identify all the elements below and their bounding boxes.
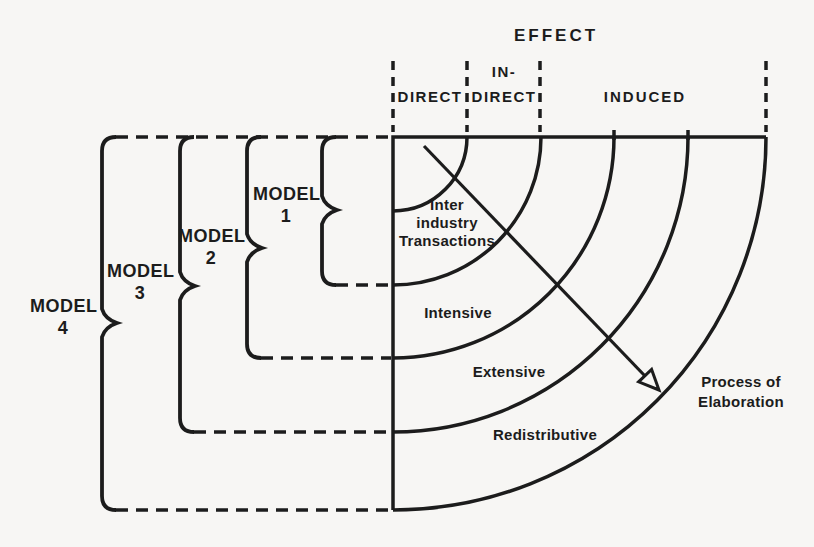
axis-lines (393, 137, 766, 510)
model-3-bracket (180, 137, 195, 432)
column-label-indirect-line2: DIRECT (466, 88, 542, 105)
model-4-bracket (102, 137, 117, 510)
ring-label-extensive: Extensive (459, 363, 559, 381)
model-4-label: MODEL4 (30, 295, 96, 339)
model-1-label: MODEL1 (253, 183, 319, 227)
column-label-indirect-line1: IN- (478, 63, 530, 80)
figure-canvas: EFFECT DIRECT IN- DIRECT INDUCED MODEL1 … (0, 0, 814, 547)
model-3-number: 3 (135, 283, 146, 303)
model-1-bracket (322, 137, 337, 285)
model-3-label: MODEL3 (107, 260, 173, 304)
model-4-number: 4 (58, 318, 69, 338)
column-label-direct: DIRECT (392, 88, 468, 105)
model-4-word: MODEL (30, 296, 98, 316)
model-1-number: 1 (281, 206, 292, 226)
arc-redistributive (393, 137, 688, 432)
model-2-number: 2 (206, 248, 217, 268)
ring-label-interindustry: InterindustryTransactions (389, 196, 505, 250)
model-2-bracket (247, 137, 262, 358)
ring-label-redistributive: Redistributive (478, 426, 612, 444)
ring-label-intensive: Intensive (408, 304, 508, 322)
interindustry-line1: Inter (430, 196, 464, 213)
interindustry-line3: Transactions (399, 232, 495, 249)
process-of-elaboration-label: Process ofElaboration (680, 372, 802, 411)
model-2-word: MODEL (178, 226, 246, 246)
effect-title: EFFECT (496, 26, 616, 46)
interindustry-line2: industry (416, 214, 478, 231)
process-line1: Process of (701, 373, 781, 390)
model-2-label: MODEL2 (178, 225, 244, 269)
model-1-word: MODEL (253, 184, 321, 204)
column-label-induced: INDUCED (593, 88, 697, 105)
arc-outer (393, 137, 766, 510)
model-3-word: MODEL (107, 261, 175, 281)
process-line2: Elaboration (698, 393, 784, 410)
